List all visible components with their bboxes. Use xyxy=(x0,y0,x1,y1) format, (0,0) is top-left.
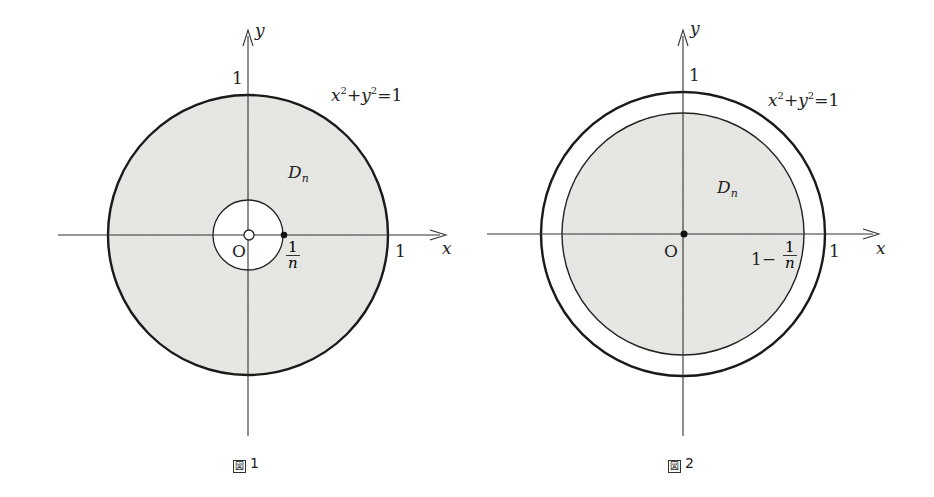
fig2-caption: 図2 xyxy=(668,455,694,473)
zu-figure-icon: 図 xyxy=(668,460,681,473)
fig1-region-label-Dn: Dn xyxy=(288,164,309,181)
fig2-y-tick-1: 1 xyxy=(689,67,700,84)
fig1-y-axis-label: y xyxy=(255,22,265,39)
fig2-x-axis-label: x xyxy=(876,240,886,257)
point-1-over-n-icon xyxy=(281,232,288,239)
fig1-x-axis-label: x xyxy=(442,240,452,257)
fig1-inner-radius-label: 1 n xyxy=(286,240,300,271)
fig1-circle-equation: x2+y2=1 xyxy=(331,87,402,104)
fig2-inner-radius-label: 1 n xyxy=(783,240,797,271)
origin-filled-point-icon xyxy=(681,231,688,238)
fig2-x-tick-1: 1 xyxy=(829,243,840,260)
fig1-origin-label: O xyxy=(232,243,246,260)
fig2-region-label-Dn: Dn xyxy=(717,179,738,196)
fig2-y-axis-label: y xyxy=(690,20,700,37)
origin-open-point-icon xyxy=(244,230,254,240)
fig1-x-tick-1: 1 xyxy=(395,243,406,260)
fig2-inner-radius-prefix: 1− xyxy=(751,251,776,268)
fig1-y-tick-1: 1 xyxy=(232,70,243,87)
fig2-origin-label: O xyxy=(664,243,678,260)
fig2-circle-equation: x2+y2=1 xyxy=(768,92,839,109)
zu-figure-icon: 図 xyxy=(233,460,246,473)
fig1-caption: 図1 xyxy=(233,455,259,473)
